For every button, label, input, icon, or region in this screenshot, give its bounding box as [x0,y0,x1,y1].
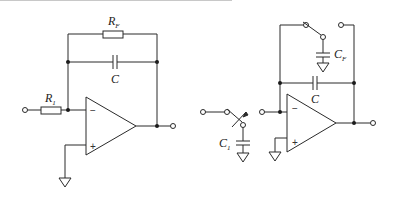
junction-dot [66,108,70,112]
switch-blade [227,109,242,122]
label-c1: C1 [219,136,231,152]
plus-sign: + [292,137,298,148]
input-terminal [23,108,28,113]
junction-dot [352,81,356,85]
rf-feedback: RF [68,14,157,62]
input-r1: R1 [23,62,87,114]
switch-terminal [241,123,246,128]
junction-dot [352,121,356,125]
output-terminal [171,124,176,129]
output-left [136,62,176,129]
circuit-diagrams: RF C R1 − + [0,0,394,202]
ground-icon [237,153,249,162]
label-r1: R1 [44,91,56,107]
label-c: C [111,72,120,86]
switch-terminal [321,35,326,40]
inverting-input-right [260,110,288,115]
left-circuit: RF C R1 − + [23,14,176,187]
right-circuit: CF C C1 [201,22,376,162]
junction-dot [278,81,282,85]
output-terminal [371,121,376,126]
opamp-left: − + [86,97,136,155]
junction-dot [155,124,159,128]
c-feedback-right: C [278,76,356,106]
switch-blade [303,22,321,35]
label-c: C [311,92,320,106]
label-rf: RF [107,14,120,30]
input-terminal [201,110,206,115]
junction-dot [278,110,282,114]
ground-icon [269,152,281,161]
plus-sign: + [90,141,96,152]
c-feedback: C [66,55,159,86]
output-right [336,121,376,126]
ground-icon [317,63,329,72]
ground-left [59,145,86,187]
input-terminal [260,110,265,115]
minus-sign: − [292,103,298,114]
ground-right [269,138,287,161]
switch-terminal [339,23,344,28]
resistor-r1 [41,107,61,114]
ground-icon [59,178,71,187]
label-cf: CF [334,47,347,63]
minus-sign: − [90,105,96,116]
c1-switch-path: C1 [201,109,251,162]
resistor-rf [103,31,123,38]
